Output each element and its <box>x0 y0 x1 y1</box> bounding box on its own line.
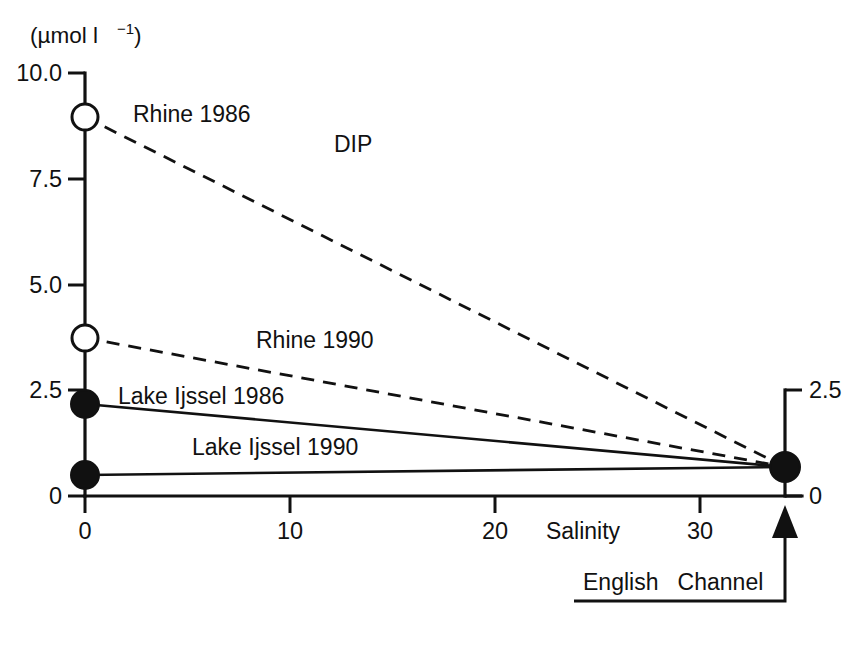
x-axis-title: Salinity <box>546 518 621 544</box>
y-tick-label-5-0: 5.0 <box>29 272 62 298</box>
marker-lake-ijssel-1990-start <box>71 461 99 489</box>
series-line-lake-ijssel-1990 <box>85 467 785 475</box>
y-axis-left: 10.0 7.5 5.0 2.5 0 <box>16 60 85 509</box>
chart-svg: 10.0 7.5 5.0 2.5 0 (µmol l −1 ) 0 10 20 … <box>0 0 857 645</box>
x-tick-label-20: 20 <box>482 518 508 544</box>
marker-rhine-1990-start <box>72 325 98 351</box>
y-tick-label-2-5: 2.5 <box>29 377 62 403</box>
series-label-rhine-1986: Rhine 1986 <box>133 101 251 127</box>
series-label-lake-ijssel-1986: Lake Ijssel 1986 <box>118 383 284 409</box>
y-right-tick-label-0: 0 <box>809 483 822 509</box>
chart-title-dip: DIP <box>334 131 372 157</box>
dip-salinity-chart: 10.0 7.5 5.0 2.5 0 (µmol l −1 ) 0 10 20 … <box>0 0 857 645</box>
marker-lake-ijssel-1986-start <box>71 390 99 418</box>
y-right-tick-label-2-5: 2.5 <box>809 377 842 403</box>
y-tick-label-10: 10.0 <box>16 60 62 86</box>
y-axis-unit-superscript: −1 <box>117 20 134 37</box>
x-axis: 0 10 20 30 Salinity <box>78 496 802 544</box>
series-label-lake-ijssel-1990: Lake Ijssel 1990 <box>192 434 358 460</box>
y-tick-label-0: 0 <box>49 483 62 509</box>
series-label-rhine-1990: Rhine 1990 <box>256 327 374 353</box>
x-tick-label-30: 30 <box>687 518 713 544</box>
y-axis-unit-tail: ) <box>134 23 142 48</box>
y-axis-right: 2.5 0 <box>785 377 842 509</box>
y-axis-unit-base: (µmol l <box>30 23 98 48</box>
x-tick-label-10: 10 <box>277 518 303 544</box>
y-axis-unit-label: (µmol l −1 ) <box>30 20 142 48</box>
up-arrow-icon <box>772 505 798 538</box>
y-tick-label-7-5: 7.5 <box>29 166 62 192</box>
marker-english-channel-endpoint <box>770 452 800 482</box>
english-channel-label: English Channel <box>583 569 763 595</box>
marker-rhine-1986-start <box>72 104 98 130</box>
x-tick-label-0: 0 <box>78 518 91 544</box>
